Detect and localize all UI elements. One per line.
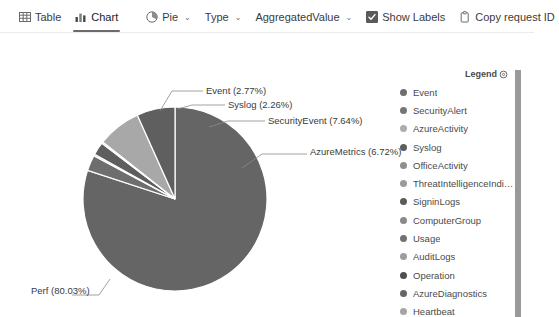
legend-item[interactable]: AuditLogs	[400, 248, 514, 266]
show-labels-label: Show Labels	[382, 11, 445, 23]
chart-type-label: Pie	[162, 11, 178, 23]
legend-item-label: ComputerGroup	[413, 215, 481, 226]
legend-color-swatch	[400, 272, 407, 279]
tab-table[interactable]: Table	[12, 1, 68, 33]
legend-item[interactable]: SigninLogs	[400, 193, 514, 211]
legend-color-swatch	[400, 89, 407, 96]
legend-item[interactable]: AzureDiagnostics	[400, 284, 514, 302]
legend-item-label: Heartbeat	[413, 306, 455, 317]
clipboard-icon	[459, 11, 471, 23]
type-dropdown[interactable]: Type ⌄	[198, 1, 249, 33]
bar-chart-icon	[75, 11, 87, 23]
legend-item[interactable]: Operation	[400, 266, 514, 284]
legend-item[interactable]: Usage	[400, 229, 514, 247]
legend-item-label: ThreatIntelligenceIndic...	[413, 178, 514, 189]
legend-item-label: Event	[413, 87, 437, 98]
pie-slice-label: SecurityEvent (7.64%)	[268, 115, 363, 126]
legend-item-label: Usage	[413, 233, 440, 244]
legend-item-label: Syslog	[413, 142, 442, 153]
legend-color-swatch	[400, 308, 407, 315]
legend-color-swatch	[400, 290, 407, 297]
legend-color-swatch	[400, 198, 407, 205]
pie-chart-icon	[146, 11, 158, 23]
pie-slice-group[interactable]	[83, 107, 267, 291]
legend-color-swatch	[400, 162, 407, 169]
legend-item[interactable]: OfficeActivity	[400, 156, 514, 174]
legend-item-label: AzureDiagnostics	[413, 288, 487, 299]
aggregated-value-dropdown[interactable]: AggregatedValue ⌄	[248, 1, 359, 33]
legend-item-label: SigninLogs	[413, 196, 460, 207]
legend-color-swatch	[400, 144, 407, 151]
chevron-down-icon: ⌄	[346, 14, 353, 22]
legend-color-swatch	[400, 253, 407, 260]
chart-toolbar: Table Chart Pie ⌄	[0, 0, 534, 33]
legend-item[interactable]: Event	[400, 83, 514, 101]
legend-item[interactable]: AzureActivity	[400, 120, 514, 138]
chart-panel: Event (2.77%)Syslog (2.26%)SecurityEvent…	[0, 33, 534, 317]
tab-chart[interactable]: Chart	[68, 1, 125, 33]
legend-header[interactable]: Legend	[465, 69, 508, 79]
gear-icon[interactable]	[499, 70, 508, 79]
legend-item-list: EventSecurityAlertAzureActivitySyslogOff…	[400, 83, 514, 317]
legend-item[interactable]: Heartbeat	[400, 303, 514, 317]
legend-color-swatch	[400, 180, 407, 187]
legend-color-swatch	[400, 235, 407, 242]
chevron-down-icon: ⌄	[184, 14, 191, 22]
pie-slice-label: Perf (80.03%)	[31, 285, 90, 296]
pie-slice-label: Event (2.77%)	[206, 85, 266, 96]
legend-item-label: Operation	[413, 270, 455, 281]
pie-slice-label: Syslog (2.26%)	[228, 99, 292, 110]
legend-item-label: OfficeActivity	[413, 160, 468, 171]
chart-legend: Legend EventSecurityAlertAzureActivitySy…	[392, 66, 514, 317]
legend-scrollbar-thumb[interactable]	[515, 70, 521, 317]
legend-color-swatch	[400, 107, 407, 114]
aggregated-value-label: AggregatedValue	[255, 11, 339, 23]
legend-item-label: AzureActivity	[413, 123, 468, 134]
legend-item[interactable]: ThreatIntelligenceIndic...	[400, 174, 514, 192]
legend-title: Legend	[465, 69, 497, 79]
legend-item[interactable]: ComputerGroup	[400, 211, 514, 229]
pie-slice-label: AzureMetrics (6.72%)	[310, 146, 401, 157]
table-grid-icon	[19, 11, 31, 23]
legend-color-swatch	[400, 125, 407, 132]
legend-item-label: SecurityAlert	[413, 105, 467, 116]
copy-request-id-button[interactable]: Copy request ID	[452, 1, 559, 33]
pie-chart-area: Event (2.77%)Syslog (2.26%)SecurityEvent…	[0, 33, 392, 317]
pie-chart-svg[interactable]	[0, 33, 392, 317]
chevron-down-icon: ⌄	[235, 14, 242, 22]
show-labels-checkbox[interactable]	[366, 11, 378, 23]
tab-chart-label: Chart	[91, 11, 118, 23]
tab-table-label: Table	[35, 11, 61, 23]
legend-item[interactable]: Syslog	[400, 138, 514, 156]
chart-type-dropdown[interactable]: Pie ⌄	[139, 1, 198, 33]
legend-color-swatch	[400, 217, 407, 224]
legend-item[interactable]: SecurityAlert	[400, 101, 514, 119]
show-labels-toggle[interactable]: Show Labels	[359, 1, 452, 33]
legend-item-label: AuditLogs	[413, 251, 455, 262]
copy-request-id-label: Copy request ID	[475, 11, 554, 23]
type-dropdown-label: Type	[205, 11, 229, 23]
